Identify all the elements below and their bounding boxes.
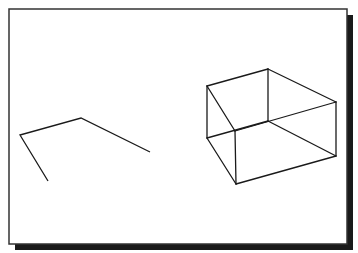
frame xyxy=(9,9,353,250)
frame-shadow-right xyxy=(347,15,353,250)
frame-shadow-bottom xyxy=(15,244,353,250)
diagram-canvas xyxy=(0,0,358,253)
frame-border xyxy=(9,9,347,244)
